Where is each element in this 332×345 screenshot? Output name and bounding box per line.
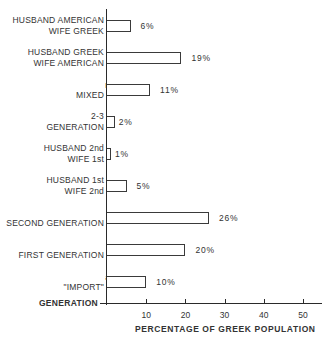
bar <box>107 116 115 128</box>
category-label-line2: "IMPORT"a <box>63 282 104 293</box>
category-label: SECOND GENERATION <box>6 207 104 229</box>
category-label-line2: WIFE 1st <box>44 154 104 165</box>
bar-value-label: 6% <box>141 20 155 32</box>
category-label-line1: 2-3 <box>46 111 104 122</box>
x-tick-label: 40 <box>254 310 274 320</box>
horizontal-bar-chart: HUSBAND AMERICANWIFE GREEK6%HUSBAND GREE… <box>0 0 332 345</box>
x-tick-label: 30 <box>215 310 235 320</box>
category-label-line1: HUSBAND 1st <box>47 175 104 186</box>
x-tick-mark <box>264 299 265 304</box>
category-label: MIXEDb <box>76 79 104 101</box>
category-label-line1: HUSBAND AMERICAN <box>12 15 104 26</box>
bar <box>107 84 150 96</box>
category-label-line1: HUSBAND 2nd <box>44 143 104 154</box>
category-label: HUSBAND AMERICANWIFE GREEK <box>12 15 104 37</box>
x-tick-mark <box>225 299 226 304</box>
bar-value-label: 26% <box>219 212 238 224</box>
x-tick-label: 10 <box>136 310 156 320</box>
bar <box>107 180 127 192</box>
category-label-line2: GENERATION <box>46 122 104 133</box>
category-label-line2: WIFE AMERICAN <box>28 58 104 69</box>
category-label: FIRST GENERATION <box>18 239 104 261</box>
bar-value-label: 2% <box>119 116 133 128</box>
bar-value-label: 19% <box>191 52 210 64</box>
category-label-line1 <box>6 207 104 218</box>
x-tick-mark <box>185 299 186 304</box>
category-label-line2: FIRST GENERATION <box>18 250 104 261</box>
bar <box>107 244 185 256</box>
x-tick-mark <box>303 299 304 304</box>
category-label-line2: WIFE GREEK <box>12 26 104 37</box>
x-tick-mark <box>146 299 147 304</box>
bar-value-label: 1% <box>115 148 129 160</box>
category-label: HUSBAND 2ndWIFE 1st <box>44 143 104 165</box>
x-axis-line <box>100 303 322 304</box>
x-tick-label: 50 <box>293 310 313 320</box>
category-label: "IMPORT"a <box>63 271 104 293</box>
bar <box>107 212 209 224</box>
category-label-line2: MIXEDb <box>76 90 104 101</box>
bar <box>107 52 181 64</box>
y-axis-title: GENERATION <box>39 298 98 308</box>
category-label: HUSBAND GREEKWIFE AMERICAN <box>28 47 104 69</box>
category-label-line2: WIFE 2nd <box>47 186 104 197</box>
bar-value-label: 20% <box>195 244 214 256</box>
category-label-line1 <box>18 239 104 250</box>
bar-value-label: 10% <box>156 276 175 288</box>
category-label-line1 <box>63 271 104 282</box>
bar-value-label: 11% <box>160 84 179 96</box>
bar <box>107 20 131 32</box>
category-label-line1 <box>76 79 104 90</box>
bar-value-label: 5% <box>137 180 151 192</box>
category-label-line2: SECOND GENERATION <box>6 218 104 229</box>
category-label-line1: HUSBAND GREEK <box>28 47 104 58</box>
x-tick-label: 20 <box>175 310 195 320</box>
category-label: HUSBAND 1stWIFE 2nd <box>47 175 104 197</box>
bar <box>107 148 111 160</box>
category-label: 2-3GENERATION <box>46 111 104 133</box>
x-axis-title: PERCENTAGE OF GREEK POPULATION <box>135 324 316 334</box>
bar <box>107 276 146 288</box>
